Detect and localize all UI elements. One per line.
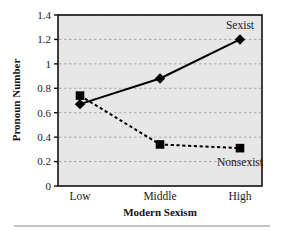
series-annotation-nonsexist: Nonsexist (217, 156, 264, 168)
chart-figure: 00.20.40.60.811.21.4 LowMiddleHigh Sexis… (0, 0, 283, 235)
y-axis-tick-label: 0.8 (37, 82, 51, 94)
y-axis-tick-label: 0.2 (37, 155, 51, 167)
x-axis-category-label: High (229, 190, 252, 203)
x-axis-title: Modern Sexism (123, 206, 197, 218)
y-axis-tick-label: 1.4 (37, 9, 51, 21)
data-point-marker-square (236, 144, 245, 153)
x-axis-category-labels: LowMiddleHigh (69, 190, 251, 203)
y-axis-tick-label: 0 (46, 180, 52, 192)
y-axis-tick-label: 1 (46, 58, 52, 70)
y-axis-tick-label: 1.2 (37, 33, 51, 45)
y-axis-tick-labels: 00.20.40.60.811.21.4 (37, 9, 51, 192)
data-point-marker-square (76, 91, 85, 100)
x-axis-category-label: Middle (143, 190, 176, 202)
y-axis-tick-label: 0.6 (37, 107, 51, 119)
y-axis-title: Pronoun Number (10, 59, 22, 142)
line-chart: 00.20.40.60.811.21.4 LowMiddleHigh Sexis… (0, 0, 283, 235)
series-annotation-sexist: Sexist (226, 19, 255, 31)
x-axis-category-label: Low (69, 190, 91, 202)
y-axis-tick-label: 0.4 (37, 131, 51, 143)
data-point-marker-square (156, 140, 165, 149)
